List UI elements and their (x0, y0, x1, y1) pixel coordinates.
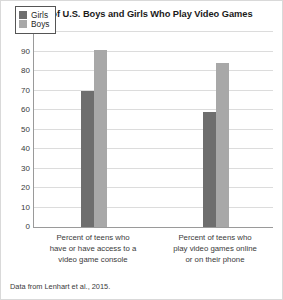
gridline-0: 0 (34, 226, 273, 227)
y-axis-tick-90: 90 (21, 46, 30, 55)
gridline-30: 30 (34, 168, 273, 169)
gridline-70: 70 (34, 90, 273, 91)
bar-boys-1[interactable] (216, 63, 229, 227)
gridline-100: 100 (34, 31, 273, 32)
source-note: Data from Lenhart et al., 2015. (10, 282, 110, 291)
gridline-90: 90 (34, 51, 273, 52)
y-axis-tick-70: 70 (21, 85, 30, 94)
legend-label-boys: Boys (31, 20, 49, 28)
bar-group-0 (80, 32, 108, 227)
category-label-line: or on their phone (157, 254, 273, 265)
category-label-0: Percent of teens whohave or have access … (35, 232, 151, 265)
gridline-40: 40 (34, 148, 273, 149)
legend-label-girls: Girls (31, 11, 48, 19)
bar-group-1 (202, 32, 230, 227)
legend-item-girls: Girls (19, 11, 49, 19)
category-label-line: play video games online (157, 243, 273, 254)
plot-area: 0102030405060708090100 (33, 32, 273, 228)
gridline-50: 50 (34, 129, 273, 130)
category-label-line: Percent of teens who (35, 232, 151, 243)
y-axis-tick-30: 30 (21, 163, 30, 172)
y-axis-tick-0: 0 (26, 222, 30, 231)
y-axis-tick-20: 20 (21, 183, 30, 192)
chart-figure: Percent of U.S. Boys and Girls Who Play … (0, 0, 283, 300)
gridline-80: 80 (34, 70, 273, 71)
legend-swatch-boys-icon (19, 20, 27, 28)
bar-boys-0[interactable] (94, 50, 107, 227)
gridline-10: 10 (34, 207, 273, 208)
gridline-60: 60 (34, 109, 273, 110)
category-label-line: have or have access to a (35, 243, 151, 254)
y-axis-tick-40: 40 (21, 144, 30, 153)
y-axis-tick-60: 60 (21, 105, 30, 114)
chart-legend: Girls Boys (15, 6, 56, 34)
category-label-line: Percent of teens who (157, 232, 273, 243)
y-axis-tick-50: 50 (21, 124, 30, 133)
category-label-line: video game console (35, 254, 151, 265)
bar-girls-0[interactable] (81, 91, 94, 228)
legend-item-boys: Boys (19, 20, 49, 28)
gridline-20: 20 (34, 187, 273, 188)
y-axis-tick-10: 10 (21, 202, 30, 211)
bar-girls-1[interactable] (203, 112, 216, 227)
y-axis-tick-80: 80 (21, 66, 30, 75)
legend-swatch-girls-icon (19, 11, 27, 19)
category-label-1: Percent of teens whoplay video games onl… (157, 232, 273, 265)
